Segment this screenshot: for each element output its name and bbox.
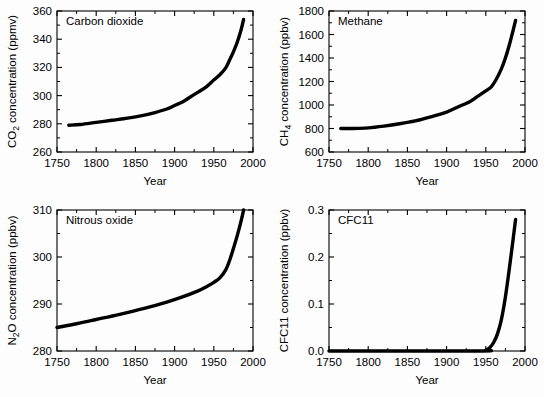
x-tick-label: 1900 bbox=[162, 356, 188, 368]
panel-methane: 1750180018501900195020006008001000120014… bbox=[272, 0, 544, 198]
y-axis-title: CH4 concentration (ppbv) bbox=[278, 17, 293, 147]
plot-frame bbox=[57, 210, 253, 351]
plot-frame bbox=[329, 210, 525, 351]
x-tick-label: 1750 bbox=[316, 157, 342, 169]
y-tick-label: 1000 bbox=[298, 99, 324, 111]
panel-nitrous-oxide: 175018001850190019502000280290300310Nitr… bbox=[0, 199, 272, 397]
data-series-cfc11 bbox=[329, 219, 516, 351]
x-tick-label: 1950 bbox=[473, 157, 499, 169]
y-tick-label: 1800 bbox=[298, 5, 324, 17]
x-tick-label: 1800 bbox=[83, 157, 109, 169]
chart-n2o: 175018001850190019502000280290300310Nitr… bbox=[0, 199, 272, 397]
y-tick-label: 1200 bbox=[298, 76, 324, 88]
plot-frame bbox=[57, 11, 253, 152]
x-tick-label: 1750 bbox=[44, 356, 70, 368]
x-axis-title: Year bbox=[143, 374, 166, 386]
x-tick-label: 1950 bbox=[473, 356, 499, 368]
y-tick-label: 300 bbox=[33, 251, 52, 263]
y-tick-label: 290 bbox=[33, 298, 52, 310]
data-series-co2 bbox=[69, 19, 244, 125]
y-tick-label: 280 bbox=[33, 118, 52, 130]
x-tick-label: 1950 bbox=[201, 157, 227, 169]
chart-co2: 1750180018501900195020002602803003203403… bbox=[0, 0, 272, 198]
y-tick-label: 1600 bbox=[298, 29, 324, 41]
y-tick-label: 310 bbox=[33, 204, 52, 216]
x-tick-label: 1750 bbox=[316, 356, 342, 368]
y-tick-label: 800 bbox=[305, 123, 324, 135]
y-axis-title: N2O concentration (ppbv) bbox=[6, 215, 21, 345]
y-tick-label: 0.3 bbox=[308, 204, 324, 216]
x-tick-label: 1850 bbox=[395, 356, 421, 368]
y-tick-label: 0.1 bbox=[308, 298, 324, 310]
x-tick-label: 2000 bbox=[240, 356, 266, 368]
y-tick-label: 360 bbox=[33, 5, 52, 17]
y-tick-label: 0.2 bbox=[308, 251, 324, 263]
x-axis-title: Year bbox=[415, 374, 438, 386]
panel-label: Nitrous oxide bbox=[66, 214, 133, 226]
chart-cfc11: 1750180018501900195020000.00.10.20.3CFC1… bbox=[272, 199, 544, 397]
y-tick-label: 280 bbox=[33, 345, 52, 357]
y-tick-label: 340 bbox=[33, 33, 52, 45]
axis-ticks bbox=[57, 210, 253, 351]
x-tick-label: 1850 bbox=[123, 356, 149, 368]
x-tick-label: 1750 bbox=[44, 157, 70, 169]
x-tick-label: 1950 bbox=[201, 356, 227, 368]
panel-carbon-dioxide: 1750180018501900195020002602803003203403… bbox=[0, 0, 272, 198]
panel-cfc11: 1750180018501900195020000.00.10.20.3CFC1… bbox=[272, 199, 544, 397]
figure-greenhouse-gas-concentrations: 1750180018501900195020002602803003203403… bbox=[0, 0, 544, 397]
y-axis-title: CFC11 concentration (ppbv) bbox=[278, 209, 290, 353]
x-tick-label: 2000 bbox=[512, 157, 538, 169]
x-tick-label: 1800 bbox=[83, 356, 109, 368]
chart-ch4: 1750180018501900195020006008001000120014… bbox=[272, 0, 544, 198]
panel-label: Methane bbox=[338, 15, 383, 27]
axis-ticks bbox=[329, 210, 525, 351]
panel-label: CFC11 bbox=[338, 214, 374, 226]
y-tick-label: 300 bbox=[33, 90, 52, 102]
x-tick-label: 2000 bbox=[240, 157, 266, 169]
data-series-ch4 bbox=[341, 20, 516, 128]
x-axis-title: Year bbox=[143, 175, 166, 187]
x-axis-title: Year bbox=[415, 175, 438, 187]
axis-ticks bbox=[57, 11, 253, 152]
x-tick-label: 1900 bbox=[434, 157, 460, 169]
x-tick-label: 1900 bbox=[162, 157, 188, 169]
y-tick-label: 260 bbox=[33, 146, 52, 158]
x-tick-label: 1800 bbox=[355, 157, 381, 169]
data-series-n2o bbox=[57, 210, 244, 328]
y-axis-title: CO2 concentration (ppmv) bbox=[6, 15, 21, 148]
x-tick-label: 2000 bbox=[512, 356, 538, 368]
x-tick-label: 1850 bbox=[395, 157, 421, 169]
x-tick-label: 1800 bbox=[355, 356, 381, 368]
y-tick-label: 1400 bbox=[298, 52, 324, 64]
y-tick-label: 0.0 bbox=[308, 345, 324, 357]
x-tick-label: 1850 bbox=[123, 157, 149, 169]
x-tick-label: 1900 bbox=[434, 356, 460, 368]
y-tick-label: 600 bbox=[305, 146, 324, 158]
panel-label: Carbon dioxide bbox=[66, 15, 143, 27]
y-tick-label: 320 bbox=[33, 61, 52, 73]
